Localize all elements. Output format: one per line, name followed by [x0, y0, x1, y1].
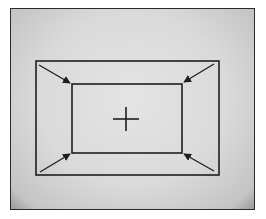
arrow-bottom-right [184, 154, 214, 171]
crosshair-icon [113, 107, 139, 131]
diagram-canvas [0, 0, 266, 219]
arrow-top-left [39, 65, 70, 83]
arrow-bottom-left [40, 154, 70, 172]
arrow-top-right [184, 64, 214, 82]
